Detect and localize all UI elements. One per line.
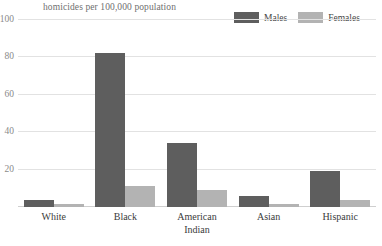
category-label-asian: Asian xyxy=(233,211,305,236)
bar-american-indian-males[interactable] xyxy=(167,143,197,208)
category-label-line: American xyxy=(161,211,233,224)
plot-area: 20406080100 xyxy=(18,20,376,207)
bar-asian-females[interactable] xyxy=(269,204,299,207)
bar-group-american-indian xyxy=(161,20,233,207)
bar-hispanic-females[interactable] xyxy=(340,200,370,207)
bar-group-white xyxy=(18,20,90,207)
bar-black-females[interactable] xyxy=(125,186,155,207)
y-axis-tick-label-20: 20 xyxy=(5,164,15,174)
category-label-line: White xyxy=(18,211,90,224)
bar-group-asian xyxy=(233,20,305,207)
category-label-line: Indian xyxy=(161,224,233,237)
y-axis-tick-label-80: 80 xyxy=(5,51,15,61)
x-axis-category-labels: WhiteBlackAmericanIndianAsianHispanic xyxy=(18,211,376,236)
category-label-hispanic: Hispanic xyxy=(304,211,376,236)
bar-white-males[interactable] xyxy=(24,200,54,207)
y-axis-tick-label-100: 100 xyxy=(0,14,14,24)
y-axis-tick-label-40: 40 xyxy=(5,126,15,136)
category-label-line: Black xyxy=(90,211,162,224)
homicide-rate-bar-chart: homicides per 100,000 population Males F… xyxy=(0,0,382,246)
y-axis-tick-label-60: 60 xyxy=(5,89,15,99)
chart-subtitle: homicides per 100,000 population xyxy=(43,2,176,12)
bar-american-indian-females[interactable] xyxy=(197,190,227,207)
category-label-line: Hispanic xyxy=(304,211,376,224)
bar-groups xyxy=(18,20,376,207)
category-label-white: White xyxy=(18,211,90,236)
category-label-american-indian: AmericanIndian xyxy=(161,211,233,236)
bar-asian-males[interactable] xyxy=(239,196,269,207)
bar-hispanic-males[interactable] xyxy=(310,171,340,207)
bar-group-hispanic xyxy=(304,20,376,207)
bar-group-black xyxy=(90,20,162,207)
bar-black-males[interactable] xyxy=(95,53,125,207)
category-label-black: Black xyxy=(90,211,162,236)
category-label-line: Asian xyxy=(233,211,305,224)
bar-white-females[interactable] xyxy=(54,204,84,207)
